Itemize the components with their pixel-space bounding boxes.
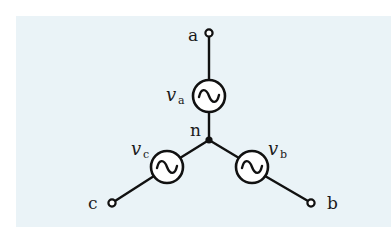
terminal-a-label: a <box>188 25 198 45</box>
source-b-subscript: b <box>280 148 287 161</box>
terminal-b-label: b <box>327 193 338 213</box>
wire-node-to-c-source <box>180 140 209 158</box>
terminal-c-label: c <box>88 193 98 213</box>
source-b-symbol: v <box>268 138 278 159</box>
ac-source-c-icon <box>151 151 183 183</box>
source-a-symbol: v <box>166 84 176 105</box>
wires <box>115 37 308 201</box>
ac-source-a-icon <box>193 80 225 112</box>
neutral-node-dot <box>205 136 212 143</box>
source-c-subscript: c <box>143 148 149 161</box>
source-a-subscript: a <box>178 94 185 107</box>
wire-node-to-b-source <box>209 140 239 158</box>
terminal-b-icon <box>307 199 314 206</box>
source-c-symbol: v <box>131 138 141 159</box>
source-c-label: v c <box>131 138 149 161</box>
terminal-c-icon <box>108 199 115 206</box>
neutral-node-label: n <box>190 120 201 140</box>
wire-c-source-to-terminal <box>115 176 154 201</box>
wire-b-source-to-terminal <box>265 176 308 201</box>
wye-circuit-diagram: a c b n v a v c v b <box>0 0 391 241</box>
terminal-a-icon <box>205 29 212 36</box>
source-b-label: v b <box>268 138 287 161</box>
source-a-label: v a <box>166 84 185 107</box>
ac-source-b-icon <box>236 151 268 183</box>
